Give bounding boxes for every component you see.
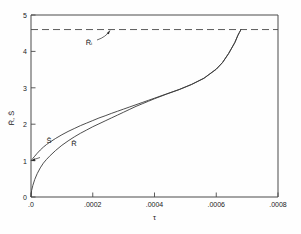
y-axis-ticks xyxy=(31,15,36,197)
x-tick-label-4: .0008 xyxy=(269,201,287,208)
curve-label-S: S̄ xyxy=(46,136,51,145)
asymptote-pointer xyxy=(97,31,110,41)
x-tick-label-2: .0004 xyxy=(146,201,164,208)
figure-container: 0 1 2 3 4 5 .0 .0002 .0004 .0006 .0008 τ… xyxy=(0,0,301,234)
y-tick-label-5: 5 xyxy=(23,12,27,19)
x-tick-label-1: .0002 xyxy=(84,201,102,208)
y-tick-label-0: 0 xyxy=(23,194,27,201)
y-axis-title: R̄, S̄ xyxy=(7,111,16,126)
y-tick-label-1: 1 xyxy=(23,158,27,165)
series-curve-S xyxy=(31,30,241,161)
x-tick-label-0: .0 xyxy=(28,201,34,208)
annotation-label-Ri: R̄ᵢ xyxy=(86,38,93,47)
y-tick-label-4: 4 xyxy=(23,48,27,55)
x-axis-title: τ xyxy=(153,213,156,222)
y-tick-label-2: 2 xyxy=(23,121,27,128)
chart-canvas: 0 1 2 3 4 5 .0 .0002 .0004 .0006 .0008 τ… xyxy=(0,0,301,234)
x-axis-ticks xyxy=(31,193,278,198)
plot-frame xyxy=(31,15,278,197)
curve-label-R: R̄ xyxy=(71,139,77,148)
y-tick-label-3: 3 xyxy=(23,85,27,92)
series-curve-R xyxy=(31,30,241,197)
x-tick-label-3: .0006 xyxy=(207,201,225,208)
